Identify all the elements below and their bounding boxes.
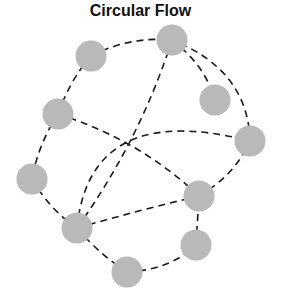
node-n8 [62,213,93,244]
node-n10 [112,257,143,288]
node-n2 [157,25,188,56]
edge-n4-n7 [58,114,199,196]
node-n6 [17,164,48,195]
flow-graph [0,0,281,296]
node-n1 [76,41,107,72]
node-n9 [181,230,212,261]
node-n7 [184,181,215,212]
edge-n8-n5 [77,131,250,228]
node-n4 [43,99,74,130]
nodes-layer [17,25,266,288]
edge-n8-n7 [77,196,199,228]
node-n3 [200,85,231,116]
node-n5 [235,126,266,157]
